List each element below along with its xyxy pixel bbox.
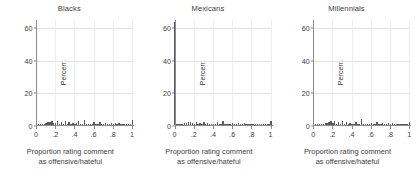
gridline-vertical: [251, 20, 252, 126]
y-axis-label: Percent: [287, 20, 393, 126]
gridline-horizontal: [313, 93, 409, 94]
x-tick-mark: [74, 126, 75, 129]
panel-millennials: MillennialsPercent02040600.2.4.6.81Propo…: [277, 0, 416, 184]
x-axis-line: [36, 125, 134, 126]
gridline-vertical: [352, 20, 353, 126]
x-tick-mark: [175, 126, 176, 129]
y-tick-label: 40: [25, 56, 37, 65]
x-tick-mark: [213, 126, 214, 129]
x-tick-mark: [55, 126, 56, 129]
x-axis-title-line2: as offensive/hateful: [4, 157, 137, 167]
x-axis-title-line2: as offensive/hateful: [281, 157, 414, 167]
y-tick-label: 60: [25, 24, 37, 33]
y-axis-label: Percent: [149, 20, 255, 126]
x-tick-mark: [232, 126, 233, 129]
x-tick-mark: [409, 126, 410, 129]
gridline-vertical: [113, 20, 114, 126]
y-axis-label: Percent: [10, 20, 116, 126]
x-axis-title: Proportion rating commentas offensive/ha…: [143, 147, 276, 166]
gridline-vertical: [55, 20, 56, 126]
gridline-vertical: [271, 20, 272, 126]
gridline-horizontal: [36, 61, 132, 62]
gridline-vertical: [94, 20, 95, 126]
panel-title: Mexicans: [139, 4, 278, 13]
x-tick-mark: [313, 126, 314, 129]
panel-title: Blacks: [0, 4, 139, 13]
gridline-horizontal: [313, 28, 409, 29]
gridline-vertical: [74, 20, 75, 126]
x-tick-label: 0: [311, 130, 315, 139]
x-tick-label: .6: [368, 130, 374, 139]
x-tick-mark: [113, 126, 114, 129]
x-tick-label: .2: [329, 130, 335, 139]
x-tick-mark: [132, 126, 133, 129]
x-tick-label: 1: [130, 130, 134, 139]
gridline-vertical: [390, 20, 391, 126]
y-axis-line: [36, 20, 37, 126]
x-tick-mark: [194, 126, 195, 129]
panel-blacks: BlacksPercent02040600.2.4.6.81Proportion…: [0, 0, 139, 184]
x-tick-label: .4: [349, 130, 355, 139]
x-tick-label: .8: [110, 130, 116, 139]
x-tick-mark: [36, 126, 37, 129]
x-tick-label: .2: [191, 130, 197, 139]
gridline-vertical: [232, 20, 233, 126]
plot-area: Percent02040600.2.4.6.81: [36, 20, 132, 126]
x-axis-line: [313, 125, 411, 126]
gridline-horizontal: [313, 61, 409, 62]
gridline-vertical: [194, 20, 195, 126]
x-tick-label: .4: [210, 130, 216, 139]
y-tick-label: 40: [302, 56, 314, 65]
gridline-vertical: [213, 20, 214, 126]
plot-area: Percent02040600.2.4.6.81: [175, 20, 271, 126]
y-tick-label: 60: [163, 24, 175, 33]
y-axis-line: [175, 20, 176, 126]
histogram-figure: BlacksPercent02040600.2.4.6.81Proportion…: [0, 0, 416, 184]
x-axis-title-line1: Proportion rating comment: [4, 147, 137, 157]
x-axis-title-line2: as offensive/hateful: [143, 157, 276, 167]
y-tick-label: 20: [302, 89, 314, 98]
gridline-horizontal: [175, 61, 271, 62]
x-tick-mark: [371, 126, 372, 129]
y-tick-label: 60: [302, 24, 314, 33]
gridline-vertical: [371, 20, 372, 126]
x-axis-title: Proportion rating commentas offensive/ha…: [4, 147, 137, 166]
y-tick-label: 40: [163, 56, 175, 65]
x-tick-label: .8: [248, 130, 254, 139]
x-tick-mark: [94, 126, 95, 129]
x-tick-label: 0: [173, 130, 177, 139]
gridline-vertical: [332, 20, 333, 126]
x-tick-label: .6: [91, 130, 97, 139]
x-tick-mark: [271, 126, 272, 129]
gridline-horizontal: [36, 28, 132, 29]
y-tick-label: 20: [25, 89, 37, 98]
x-axis-title-line1: Proportion rating comment: [281, 147, 414, 157]
x-tick-label: .6: [229, 130, 235, 139]
x-tick-mark: [390, 126, 391, 129]
panel-title: Millennials: [277, 4, 416, 13]
x-tick-label: 1: [269, 130, 273, 139]
gridline-vertical: [132, 20, 133, 126]
x-tick-mark: [332, 126, 333, 129]
gridline-horizontal: [36, 93, 132, 94]
gridline-horizontal: [175, 28, 271, 29]
x-tick-mark: [352, 126, 353, 129]
gridline-horizontal: [175, 93, 271, 94]
gridline-vertical: [409, 20, 410, 126]
x-axis-title: Proportion rating commentas offensive/ha…: [281, 147, 414, 166]
x-tick-label: .2: [52, 130, 58, 139]
x-tick-label: 1: [407, 130, 411, 139]
x-tick-mark: [251, 126, 252, 129]
y-axis-line: [313, 20, 314, 126]
x-axis-title-line1: Proportion rating comment: [143, 147, 276, 157]
x-axis-line: [175, 125, 273, 126]
panel-mexicans: MexicansPercent02040600.2.4.6.81Proporti…: [139, 0, 278, 184]
plot-area: Percent02040600.2.4.6.81: [313, 20, 409, 126]
y-tick-label: 20: [163, 89, 175, 98]
x-tick-label: 0: [34, 130, 38, 139]
x-tick-label: .8: [387, 130, 393, 139]
x-tick-label: .4: [71, 130, 77, 139]
